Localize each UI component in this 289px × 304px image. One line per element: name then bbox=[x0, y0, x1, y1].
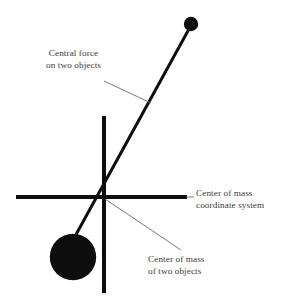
label-center-of-mass: Center of mass of two objects bbox=[148, 254, 205, 277]
label-coordinate-system-line2: coordinate system bbox=[196, 200, 264, 212]
label-center-of-mass-line1: Center of mass bbox=[148, 254, 205, 266]
label-central-force-line2: on two objects bbox=[46, 60, 101, 72]
label-coordinate-system: Center of mass coordinate system bbox=[196, 188, 264, 211]
central-force-diagram bbox=[0, 0, 289, 304]
label-coordinate-system-line1: Center of mass bbox=[196, 188, 264, 200]
diagram-canvas: Central force on two objects Center of m… bbox=[0, 0, 289, 304]
small-object-dot bbox=[184, 17, 198, 31]
label-central-force: Central force on two objects bbox=[46, 48, 101, 71]
leader-line-center-of-mass bbox=[105, 199, 181, 250]
leader-line-central-force bbox=[104, 81, 151, 103]
label-center-of-mass-line2: of two objects bbox=[148, 266, 205, 278]
label-central-force-line1: Central force bbox=[46, 48, 101, 60]
large-object-circle bbox=[50, 234, 96, 280]
